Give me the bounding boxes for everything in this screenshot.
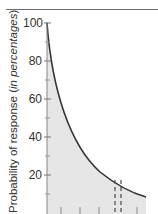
y-axis-label-italic: in percentages — [7, 14, 19, 89]
y-axis-label-end: ) — [7, 10, 19, 14]
y-axis-label: Probability of response (in percentages) — [7, 13, 21, 213]
curve-area-fill — [47, 23, 146, 214]
y-axis-label-main: Probability of response ( — [7, 89, 19, 213]
